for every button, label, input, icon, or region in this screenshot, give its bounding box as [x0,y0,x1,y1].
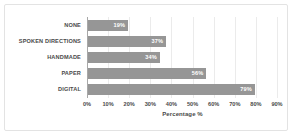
category-axis: NONE SPOKEN DIRECTIONS HANDMADE PAPER DI… [5,17,85,98]
category-label: DIGITAL [5,86,85,93]
table-row: 56% [88,68,278,79]
bar[interactable]: 79% [88,84,255,95]
category-label: PAPER [5,70,85,77]
table-row: 79% [88,84,278,95]
bar[interactable]: 34% [88,52,160,63]
table-row: 34% [88,52,278,63]
bar-series: 19% 37% 34% 56% [88,17,278,98]
bar-value-label: 37% [152,38,164,45]
table-row: 19% [88,20,278,31]
x-axis-ticks: 0%10%20%30%40%50%60%70%80%90% [87,100,278,109]
bar-value-label: 19% [114,22,126,29]
x-axis-title: Percentage % [87,111,278,117]
chart-frame: NONE SPOKEN DIRECTIONS HANDMADE PAPER DI… [4,4,288,131]
x-axis-tick-label: 10% [103,100,114,108]
category-label: HANDMADE [5,54,85,61]
bar-value-label: 34% [145,54,157,61]
x-axis-tick-label: 70% [229,100,240,108]
bar[interactable]: 19% [88,20,128,31]
x-axis-tick-label: 60% [208,100,219,108]
category-label: NONE [5,22,85,29]
x-axis-tick-label: 90% [271,100,282,108]
bar-value-label: 56% [192,70,204,77]
x-axis-tick-label: 80% [250,100,261,108]
plot-area: 19% 37% 34% 56% [87,17,278,98]
bar[interactable]: 56% [88,68,206,79]
x-axis-tick-label: 20% [124,100,135,108]
x-axis-tick-label: 30% [145,100,156,108]
x-axis-tick-label: 0% [83,100,91,108]
table-row: 37% [88,36,278,47]
bar[interactable]: 37% [88,36,166,47]
bar-chart: NONE SPOKEN DIRECTIONS HANDMADE PAPER DI… [5,5,289,132]
x-axis-tick-label: 40% [166,100,177,108]
category-label: SPOKEN DIRECTIONS [5,38,85,45]
x-axis-tick-label: 50% [187,100,198,108]
bar-value-label: 79% [240,86,252,93]
